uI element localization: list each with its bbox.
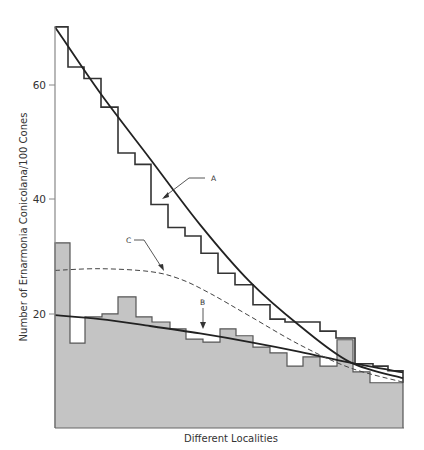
y-tick-60: 60: [33, 79, 46, 91]
arrow-head-icon: [200, 322, 206, 329]
lower-shaded-histogram: [55, 243, 403, 428]
annotation-label-c: C: [126, 236, 131, 245]
shaded-bar: [70, 343, 85, 428]
shaded-bar: [170, 329, 186, 428]
shaded-bar: [270, 353, 287, 428]
shaded-bar: [220, 329, 236, 428]
chart: 60 40 20 Number of Ernarmonia Conicolana…: [0, 0, 424, 450]
shaded-bar: [253, 347, 270, 428]
x-axis-label: Different Localities: [184, 433, 278, 444]
arrow-head-icon: [158, 264, 164, 271]
arrow-head-icon: [162, 192, 169, 199]
shaded-bar: [136, 317, 152, 428]
y-axis-label: Number of Ernarmonia Conicolana/100 Cone…: [18, 113, 29, 342]
annotation-c: C: [126, 236, 164, 271]
shaded-bar: [102, 314, 118, 428]
y-tick-20: 20: [33, 308, 46, 320]
y-ticks: 60 40 20: [33, 79, 55, 320]
shaded-bar: [287, 366, 303, 428]
shaded-bar: [370, 383, 403, 428]
shaded-bar: [85, 317, 102, 428]
shaded-bar: [337, 340, 353, 428]
annotation-label-a: A: [211, 174, 217, 183]
shaded-bar: [303, 357, 320, 428]
shaded-bar: [320, 366, 337, 428]
annotation-b: B: [200, 298, 206, 329]
y-tick-40: 40: [33, 193, 46, 205]
shaded-bar: [203, 342, 220, 428]
shaded-bar: [236, 336, 253, 428]
annotation-label-b: B: [200, 298, 205, 307]
shaded-bar: [353, 372, 370, 428]
shaded-bar: [118, 297, 136, 428]
shaded-bar: [152, 322, 170, 428]
shaded-bar: [186, 339, 203, 428]
